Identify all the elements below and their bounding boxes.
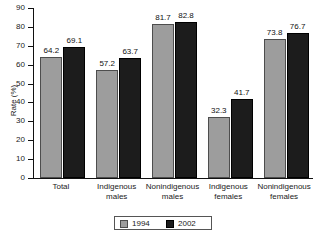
bar-2002-nonindigenous-males: [175, 22, 197, 178]
bar-group: 32.341.7: [206, 8, 255, 178]
bar-value-label: 76.7: [284, 23, 312, 31]
bar-1994-indigenous-males: [96, 70, 118, 178]
legend-label-1994: 1994: [132, 220, 150, 228]
chart-legend: 1994 2002: [114, 216, 212, 230]
category-label-line: Nonindigenous: [251, 182, 315, 192]
y-tick-label: 30: [1, 117, 25, 125]
bar-1994-total: [40, 57, 62, 178]
bar-2002-indigenous-females: [231, 99, 253, 178]
bar-2002-indigenous-males: [119, 58, 141, 178]
bar-value-label: 64.2: [37, 47, 65, 55]
bar-2002-nonindigenous-females: [287, 33, 309, 178]
bar-group: 57.263.7: [94, 8, 143, 178]
bar-1994-indigenous-females: [208, 117, 230, 178]
bar-value-label: 41.7: [228, 89, 256, 97]
bar-value-label: 69.1: [60, 37, 88, 45]
legend-swatch-2002: [166, 220, 174, 228]
bar-group: 73.876.7: [262, 8, 311, 178]
legend-item-1994: 1994: [120, 219, 150, 229]
y-tick-label: 70: [1, 42, 25, 50]
bar-value-label: 82.8: [172, 12, 200, 20]
bar-value-label: 57.2: [93, 60, 121, 68]
bar-value-label: 63.7: [116, 48, 144, 56]
y-tick-label: 90: [1, 4, 25, 12]
y-tick: [28, 178, 33, 179]
y-tick-label: 80: [1, 23, 25, 31]
bar-group: 64.269.1: [38, 8, 87, 178]
category-label: Nonindigenousfemales: [251, 182, 315, 202]
category-label-line: females: [251, 192, 315, 202]
legend-label-2002: 2002: [178, 220, 196, 228]
bar-1994-nonindigenous-females: [264, 39, 286, 178]
legend-swatch-1994: [120, 220, 128, 228]
bar-group: 81.782.8: [150, 8, 199, 178]
y-tick-label: 50: [1, 80, 25, 88]
y-tick-label: 10: [1, 155, 25, 163]
y-tick-label: 0: [1, 174, 25, 182]
y-tick-label: 40: [1, 98, 25, 106]
bar-2002-total: [63, 47, 85, 178]
y-tick-label: 20: [1, 136, 25, 144]
legend-item-2002: 2002: [166, 219, 196, 229]
bar-value-label: 32.3: [205, 107, 233, 115]
bar-1994-nonindigenous-males: [152, 24, 174, 178]
y-tick-label: 60: [1, 61, 25, 69]
x-axis-line: [33, 178, 313, 179]
bar-chart: Rate (%) 0102030405060708090 64.269.157.…: [0, 0, 315, 235]
plot-area: 64.269.157.263.781.782.832.341.773.876.7: [33, 8, 312, 178]
